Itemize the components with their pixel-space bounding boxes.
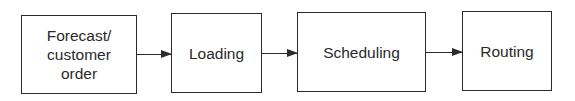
node-label: Scheduling xyxy=(323,43,400,62)
arrow-loading-to-scheduling xyxy=(262,53,297,54)
node-label: Routing xyxy=(480,42,533,61)
node-routing: Routing xyxy=(462,11,552,91)
node-label: Forecast/ customer order xyxy=(47,26,112,83)
arrow-scheduling-to-routing xyxy=(426,52,462,53)
node-loading: Loading xyxy=(171,13,262,93)
node-scheduling: Scheduling xyxy=(297,12,426,92)
node-label: Loading xyxy=(189,44,244,63)
node-forecast-customer-order: Forecast/ customer order xyxy=(21,15,137,94)
arrow-forecast-to-loading xyxy=(137,54,171,55)
